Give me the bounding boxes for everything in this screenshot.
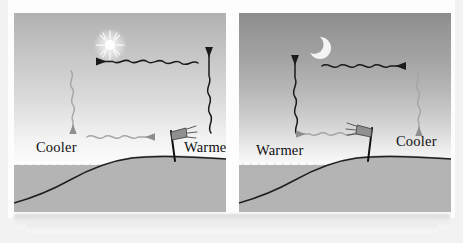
arrow-upper-left: [97, 60, 198, 64]
label-warmer-night: Warmer: [256, 142, 304, 159]
label-cooler-day: Cooler: [36, 139, 77, 156]
night-illustration: [239, 13, 451, 212]
flag-night: [346, 123, 372, 161]
crescent-moon-icon: [301, 33, 335, 65]
arrow-right-up: [207, 48, 211, 133]
land-hill-day: [14, 155, 226, 212]
label-cooler-night: Cooler: [396, 133, 437, 150]
arrow-left-up: [293, 56, 297, 135]
page-background: Cooler Warmer: [0, 0, 463, 243]
panel-day: Cooler Warmer: [14, 13, 226, 212]
day-illustration: [14, 13, 226, 212]
arrow-lower-right: [87, 136, 154, 139]
paper-shadow-secondary: [26, 224, 438, 232]
land-hill-night: [239, 155, 451, 212]
sun-icon: [93, 28, 127, 62]
arrow-lower-left: [297, 133, 361, 136]
label-warmer-day: Warmer: [184, 139, 226, 156]
arrow-left-down: [70, 71, 74, 133]
arrow-right-down: [416, 73, 420, 135]
panel-night: Warmer Cooler: [239, 13, 451, 212]
